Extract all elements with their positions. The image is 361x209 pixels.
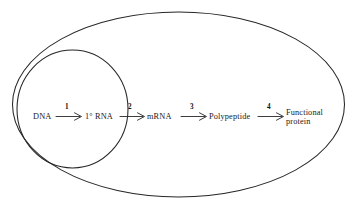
arrow-step-3: 3	[181, 103, 207, 120]
node-label-mrna: mRNA	[147, 112, 172, 121]
cell-diagram: DNA 1° RNA mRNA Polypeptide Functional p…	[0, 0, 361, 209]
arrow-step-4-number: 4	[267, 103, 271, 111]
arrow-step-1-number: 1	[65, 103, 69, 111]
arrow-step-3-number: 3	[190, 103, 194, 111]
node-label-polypeptide: Polypeptide	[209, 112, 250, 121]
node-label-dna: DNA	[33, 112, 51, 121]
arrow-step-2: 2	[120, 103, 145, 120]
cell-membrane-outline	[13, 12, 345, 197]
arrow-step-2-number: 2	[128, 103, 132, 111]
arrow-step-1: 1	[56, 103, 82, 120]
arrow-step-4: 4	[258, 103, 284, 120]
node-label-primary-rna: 1° RNA	[85, 112, 113, 121]
node-label-functional-protein-line1: Functional	[286, 108, 324, 117]
node-label-functional-protein-line2: protein	[286, 117, 311, 126]
diagram-canvas: DNA 1° RNA mRNA Polypeptide Functional p…	[0, 0, 361, 209]
